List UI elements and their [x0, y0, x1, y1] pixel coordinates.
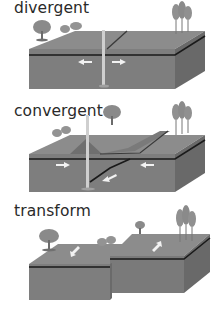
- divergent-boundary-diagram: [0, 0, 222, 100]
- small-tree-icon: [135, 221, 145, 234]
- tree-icon: [103, 105, 121, 125]
- convergent-boundary-diagram: [0, 95, 222, 195]
- forest-icon: [172, 101, 192, 135]
- transform-boundary-diagram: [0, 200, 222, 313]
- bush-icon: [52, 126, 71, 137]
- forest-icon: [172, 1, 192, 34]
- tree-icon: [33, 20, 51, 42]
